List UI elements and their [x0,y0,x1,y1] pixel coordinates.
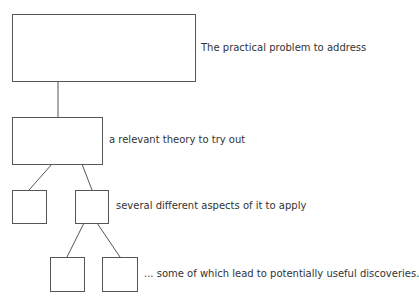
connector-theory-to-aspect-right [82,164,92,190]
discovery-box-right [102,257,138,292]
discoveries-label: ... some of which lead to potentially us… [144,268,419,280]
problem-box [12,14,196,82]
theory-box [12,117,103,165]
aspects-label: several different aspects of it to apply [116,200,306,212]
discovery-box-left [50,257,85,292]
connector-aspect-to-discovery-left [67,223,84,257]
connector-theory-to-aspect-left [29,164,52,190]
problem-label: The practical problem to address [201,42,366,54]
aspect-box-left [12,190,47,224]
theory-label: a relevant theory to try out [109,134,245,146]
aspect-box-right [75,190,109,224]
connector-aspect-to-discovery-right [97,223,120,257]
